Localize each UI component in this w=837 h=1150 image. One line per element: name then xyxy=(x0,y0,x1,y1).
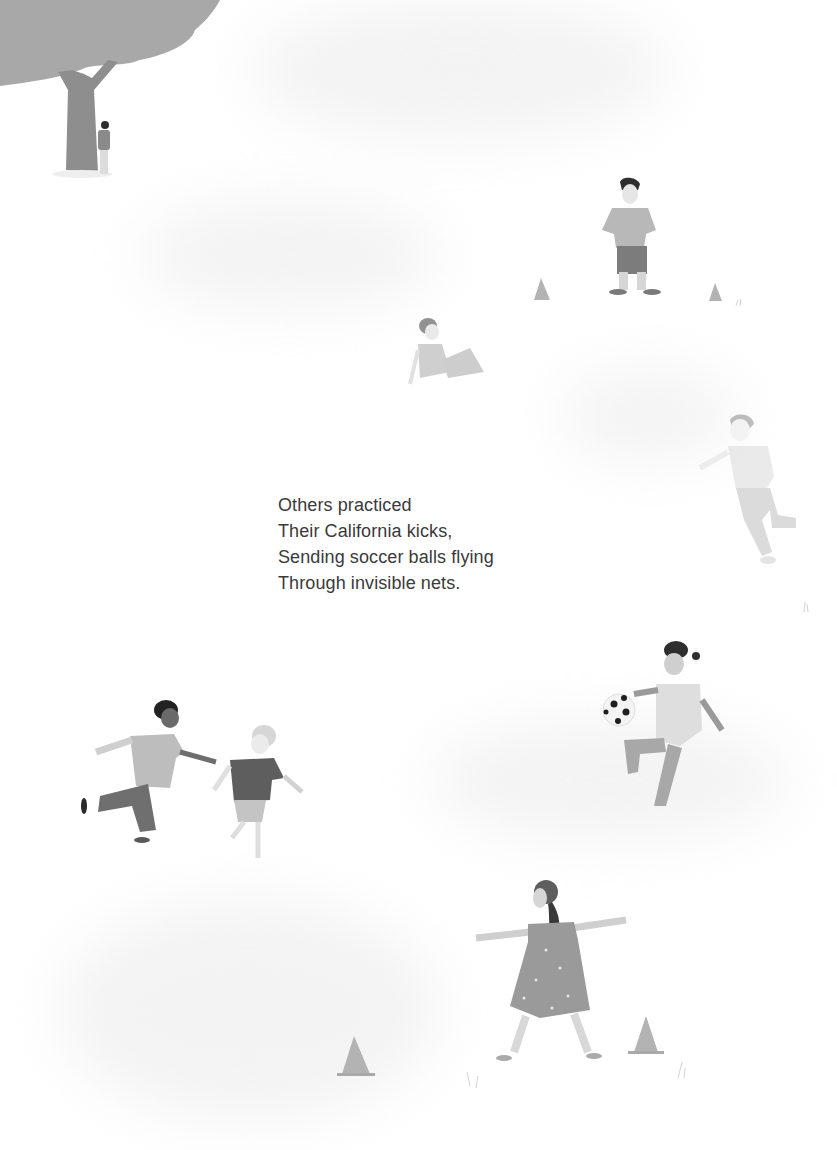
story-line-2: Their California kicks, xyxy=(278,518,538,544)
story-line-3: Sending soccer balls flying xyxy=(278,544,538,570)
boy-running-right-2 xyxy=(214,725,302,858)
cone xyxy=(534,278,550,300)
boy-reclining xyxy=(410,318,484,384)
girl-juggling-ball xyxy=(624,641,722,806)
boy-hands-on-hips xyxy=(602,178,661,295)
cone xyxy=(628,1016,664,1054)
child-behind-tree xyxy=(98,121,110,174)
boy-running-right xyxy=(700,414,796,564)
cone xyxy=(709,283,722,301)
picture-book-page: Others practiced Their California kicks,… xyxy=(0,0,837,1150)
cone xyxy=(337,1036,375,1076)
story-line-1: Others practiced xyxy=(278,492,538,518)
tree-illustration xyxy=(0,0,220,178)
story-line-4: Through invisible nets. xyxy=(278,570,538,596)
story-text: Others practiced Their California kicks,… xyxy=(278,492,538,596)
girl-in-dress xyxy=(476,880,626,1061)
soccer-ball xyxy=(603,694,635,726)
boy-running-left xyxy=(81,700,216,843)
